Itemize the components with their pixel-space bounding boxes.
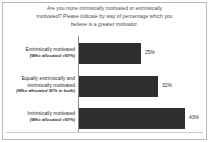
chart-row: Extrinsically motivated (Who allocated >…	[6, 40, 203, 70]
chart-title-line-2: motivated? Please indicate by way of per…	[14, 12, 195, 20]
chart-row: Equally extrinsically and intrinsically …	[6, 72, 203, 104]
chart-title: Are you more intrinsically motivated or …	[14, 4, 195, 29]
chart-title-line-3: believe is a greater motivator.	[14, 20, 195, 28]
category-label-line: Extrinsically motivated	[6, 46, 75, 53]
category-sublabel: (Who allocated >50%)	[6, 53, 75, 59]
bar-value-label: 32%	[162, 83, 172, 88]
category-label: Equally extrinsically and intrinsically …	[6, 75, 75, 94]
plot-area: Extrinsically motivated (Who allocated >…	[6, 36, 203, 136]
category-label-line: Equally extrinsically and	[6, 75, 75, 82]
category-sublabel: (Who allocated 50% to both)	[6, 88, 75, 94]
chart-figure: Are you more intrinsically motivated or …	[0, 0, 209, 142]
category-label: Intrinsically motivated (Who allocated >…	[6, 110, 75, 123]
category-sublabel: (Who allocated >50%)	[6, 117, 75, 123]
chart-title-line-1: Are you more intrinsically motivated or …	[14, 4, 195, 12]
bar-equally-motivated[interactable]	[79, 76, 158, 97]
chart-row: Intrinsically motivated (Who allocated >…	[6, 105, 203, 133]
bar-intrinsically-motivated[interactable]	[79, 108, 185, 129]
bar-value-label: 25%	[145, 50, 155, 55]
bar-value-label: 43%	[189, 115, 199, 120]
category-label-line: intrinsically motivated	[6, 82, 75, 89]
bar-extrinsically-motivated[interactable]	[79, 43, 141, 64]
category-label-line: Intrinsically motivated	[6, 110, 75, 117]
category-label: Extrinsically motivated (Who allocated >…	[6, 46, 75, 59]
